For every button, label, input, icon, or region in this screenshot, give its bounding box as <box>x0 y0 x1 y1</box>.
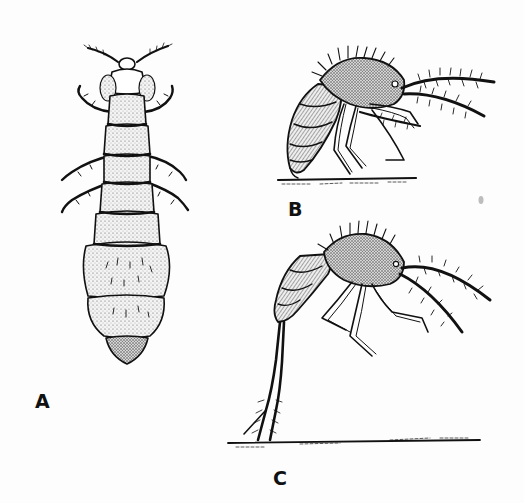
insect-b-lateral <box>278 46 494 184</box>
insect-c-lateral <box>228 221 490 447</box>
scientific-illustration-plate: A B C <box>0 0 524 503</box>
panel-label-a: A <box>35 392 50 411</box>
paper-smudge <box>479 196 484 204</box>
insect-drawings <box>0 0 524 503</box>
insect-a-dorsal <box>62 43 188 364</box>
panel-label-b: B <box>288 200 302 219</box>
panel-label-c: C <box>273 469 287 488</box>
